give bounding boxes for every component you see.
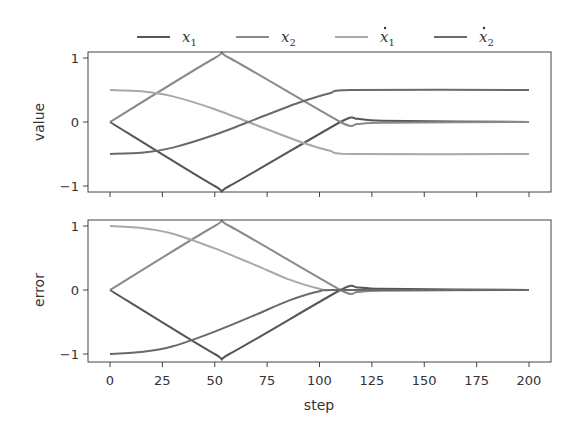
xtick-label: 125 <box>359 373 384 388</box>
top-ylabel: value <box>31 103 47 141</box>
top-ytick-neg1: −1 <box>60 179 79 194</box>
legend-label-x1: x1 <box>182 28 197 48</box>
bottom-yticks: 1 0 −1 <box>60 219 88 362</box>
bottom-ytick-1: 1 <box>71 219 79 234</box>
top-ytick-1: 1 <box>71 51 79 66</box>
top-series-group <box>110 52 529 192</box>
legend: x1 x2 x1 x2 <box>137 27 494 48</box>
xtick-label: 75 <box>259 373 276 388</box>
top-xticks <box>110 192 529 197</box>
bottom-axes: 1 0 −1 error 0255075100125150175200 step <box>31 219 551 413</box>
top-yticks: 1 0 −1 <box>60 51 88 194</box>
xtick-labels: 0255075100125150175200 <box>106 373 542 388</box>
chart-figure: x1 x2 x1 x2 1 0 −1 value <box>0 0 582 433</box>
dot-accent-icon <box>483 27 485 29</box>
xtick-label: 25 <box>154 373 171 388</box>
top-ytick-0: 0 <box>71 115 79 130</box>
xtick-label: 100 <box>307 373 332 388</box>
dot-accent-icon <box>384 27 386 29</box>
xlabel: step <box>304 397 334 413</box>
bottom-series-group <box>110 220 529 360</box>
series-line-x1_dot <box>110 226 529 290</box>
legend-label-x2: x2 <box>281 28 296 48</box>
bottom-ytick-neg1: −1 <box>60 347 79 362</box>
xtick-label: 50 <box>206 373 223 388</box>
series-line-x1 <box>110 286 529 360</box>
top-axes: 1 0 −1 value <box>31 51 551 197</box>
series-line-x2 <box>110 220 529 294</box>
legend-label-x1-dot: x1 <box>380 28 395 48</box>
series-line-x2_dot <box>110 290 529 354</box>
xtick-label: 175 <box>464 373 489 388</box>
xtick-label: 150 <box>412 373 437 388</box>
xtick-label: 0 <box>106 373 114 388</box>
legend-label-x2-dot: x2 <box>479 28 494 48</box>
bottom-ylabel: error <box>31 273 47 307</box>
xtick-label: 200 <box>517 373 542 388</box>
bottom-xticks <box>110 362 529 367</box>
bottom-ytick-0: 0 <box>71 283 79 298</box>
